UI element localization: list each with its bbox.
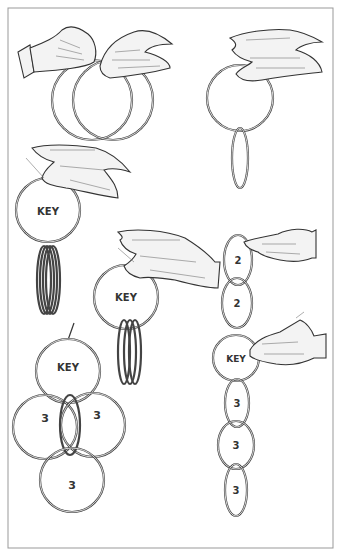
fig-two-rings-linked [18, 27, 172, 140]
ring-label-key: KEY [37, 206, 60, 217]
ring-label-key: KEY [115, 292, 138, 303]
ring-label-3: 3 [233, 485, 240, 496]
ring-label-key: KEY [226, 354, 246, 364]
hand-icon [118, 230, 220, 288]
hand-icon [230, 29, 322, 80]
fig-ring-with-hanging-ring [207, 29, 322, 188]
holding-hand-icon [250, 312, 326, 365]
fig-key-ring-with-stack: KEY [16, 145, 130, 314]
right-hand-icon [100, 31, 172, 78]
ring-label-3: 3 [233, 440, 240, 451]
ring-label-3: 3 [41, 412, 49, 425]
hand-icon [26, 145, 130, 198]
ring-label-3: 3 [68, 479, 76, 492]
pointing-hand-icon [244, 229, 316, 261]
illustration-plate: KEY KEY KEY 3 [0, 0, 338, 559]
left-hand-icon [18, 27, 96, 78]
ring-label-3: 3 [93, 409, 101, 422]
fig-key-ring-held-stack: KEY [94, 230, 220, 384]
ring-label-2: 2 [234, 298, 241, 309]
ring-label-3: 3 [234, 398, 241, 409]
ring-label-key: KEY [57, 362, 80, 373]
fig-chain: 2 2 KEY 3 3 3 [213, 229, 326, 516]
ring-stack [37, 246, 60, 314]
fig-flower-formation: KEY 3 3 3 [13, 323, 125, 512]
ring-label-2: 2 [235, 255, 242, 266]
